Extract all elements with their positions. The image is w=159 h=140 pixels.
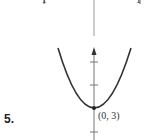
y-axis-arrow-icon [92,47,97,55]
vertex-point [92,106,96,110]
vertex-label: (0, 3) [98,110,120,121]
problem-number: 5. [4,112,14,126]
prev-figure-label-left: −1 [36,0,47,5]
parabola-graph [0,0,159,140]
prev-figure-label-right: 1 [136,0,141,5]
figure: −1 1 (0, 3) 5. [0,0,159,140]
